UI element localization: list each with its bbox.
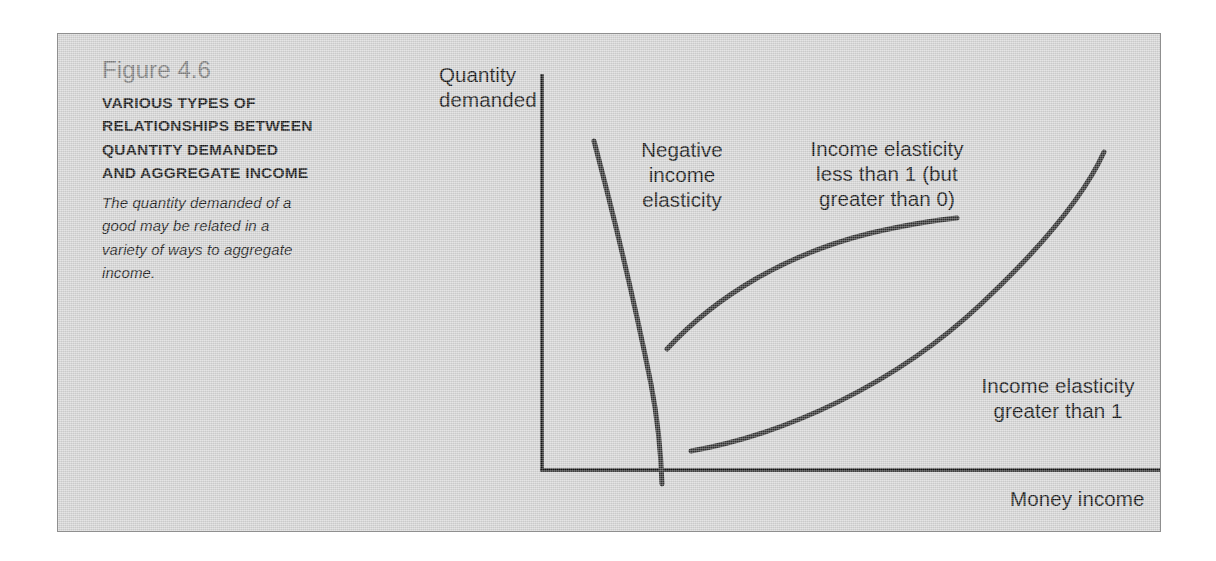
figure-title: VARIOUS TYPES OF RELATIONSHIPS BETWEEN Q…: [102, 91, 316, 185]
caption-block: Figure 4.6 VARIOUS TYPES OF RELATIONSHIP…: [102, 56, 316, 284]
figure-number: Figure 4.6: [102, 56, 316, 84]
chart-area: Quantity demanded Negative income elasti…: [316, 34, 1160, 531]
annotation-elasticity-greater-than-one: Income elasticity greater than 1: [942, 373, 1161, 423]
figure-description: The quantity demanded of a good may be r…: [102, 191, 316, 285]
annotation-elasticity-less-than-one: Income elasticity less than 1 (but great…: [772, 136, 1002, 211]
curve-elasticity-less-than-one: [667, 218, 957, 349]
y-axis-label: Quantity demanded: [439, 62, 539, 112]
figure-panel: Figure 4.6 VARIOUS TYPES OF RELATIONSHIP…: [57, 33, 1161, 532]
annotation-negative-income-elasticity: Negative income elasticity: [602, 137, 762, 212]
x-axis-label: Money income: [1010, 486, 1161, 511]
